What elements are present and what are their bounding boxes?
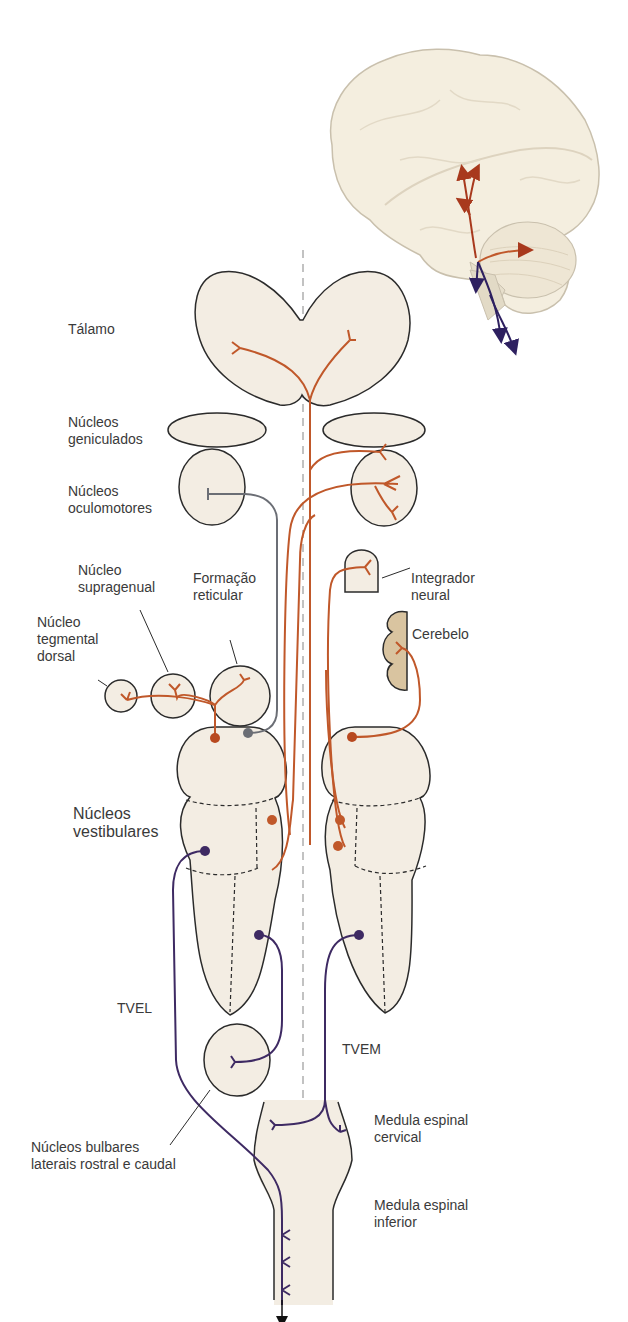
label-neural-integrator: Integrador neural: [411, 570, 475, 604]
vestibular-nuclei-right: [322, 727, 430, 1013]
synapse-dot: [333, 841, 343, 851]
label-tvel: TVEL: [117, 1000, 152, 1017]
oculomotor-right: [351, 450, 417, 526]
synapse-dot-gray: [243, 728, 253, 738]
synapse-dot-purple: [200, 846, 210, 856]
tegmental-dorsal-nucleus: [105, 680, 137, 712]
label-oculomotor: Núcleos oculomotores: [68, 483, 152, 517]
synapse-dot: [210, 733, 220, 743]
lateral-bulbar-nuclei: [204, 1024, 270, 1096]
synapse-dot-purple: [354, 930, 364, 940]
synapse-dot-purple: [254, 930, 264, 940]
oculomotor-left: [179, 449, 245, 525]
synapse-dot: [267, 815, 277, 825]
synapse-dot: [335, 815, 345, 825]
label-thalamus: Tálamo: [68, 321, 115, 338]
label-cerebellum: Cerebelo: [412, 626, 469, 643]
neural-integrator-shape: [345, 550, 378, 592]
cerebellum-shape: [383, 611, 407, 690]
label-bulbar-nuclei: Núcleos bulbares laterais rostral e caud…: [31, 1139, 176, 1173]
label-supragenual: Núcleo supragenual: [78, 562, 155, 596]
thalamus-shape: [195, 272, 410, 406]
synapse-dot: [347, 732, 357, 742]
label-vestibular-nuclei: Núcleos vestibulares: [73, 805, 158, 841]
label-reticular-formation: Formação reticular: [193, 570, 256, 604]
label-cervical-spinal-cord: Medula espinal cervical: [374, 1112, 468, 1146]
label-tvem: TVEM: [342, 1041, 381, 1058]
geniculate-right: [323, 413, 425, 447]
label-geniculate: Núcleos geniculados: [68, 414, 143, 448]
label-tegmental-dorsal: Núcleo tegmental dorsal: [37, 614, 98, 665]
geniculate-left: [168, 413, 266, 447]
label-lower-spinal-cord: Medula espinal inferior: [374, 1197, 468, 1231]
